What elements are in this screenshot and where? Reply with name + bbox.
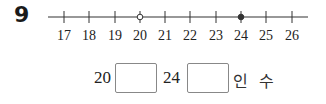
tick-label: 24 [229,28,253,44]
answer-row: 20 24 인 수 [0,62,326,96]
right-value: 24 [163,68,180,88]
left-value: 20 [94,68,111,88]
tick-label: 26 [280,28,304,44]
tick-label: 23 [204,28,228,44]
number-line [0,0,326,30]
suffix-text: 인 수 [233,68,277,92]
tick-label: 21 [153,28,177,44]
tick-label: 18 [77,28,101,44]
tick-label: 19 [103,28,127,44]
open-point-icon [137,14,143,20]
answer-box-2[interactable] [187,63,229,93]
tick-label: 20 [128,28,152,44]
tick-label: 25 [254,28,278,44]
answer-box-1[interactable] [115,63,157,93]
tick-label: 22 [178,28,202,44]
tick-label: 17 [52,28,76,44]
closed-point-icon [238,14,244,20]
